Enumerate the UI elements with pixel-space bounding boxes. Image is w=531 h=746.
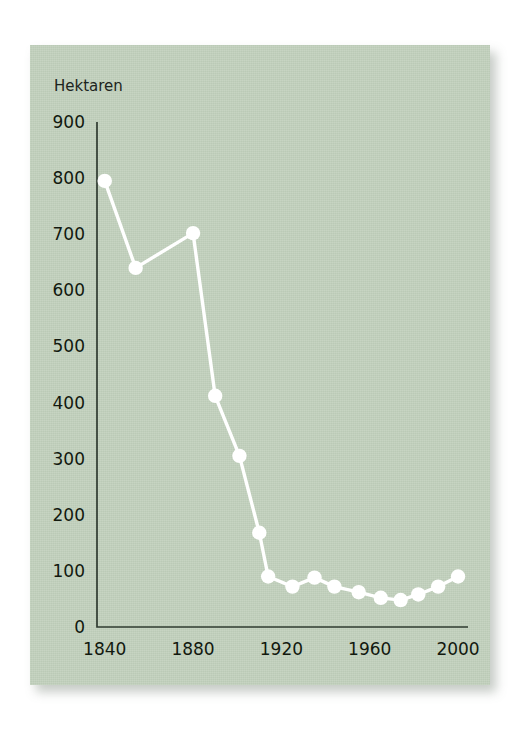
data-point [186,226,200,240]
y-tick-label: 500 [53,336,85,356]
x-tick-label: 1880 [171,639,214,659]
y-tick-label: 0 [74,617,85,637]
data-point [307,570,321,584]
y-tick-label: 100 [53,561,85,581]
line-chart: Hektaren 0100200300400500600700800900 18… [30,45,490,685]
data-point [411,587,425,601]
series-markers [98,174,466,608]
x-tick-label: 1960 [348,639,391,659]
y-tick-label: 900 [53,112,85,132]
axis-lines [97,122,468,627]
y-axis-title: Hektaren [54,77,123,95]
x-tick-label: 1840 [83,639,126,659]
data-point [374,591,388,605]
data-point [232,449,246,463]
data-point [327,579,341,593]
data-point [208,389,222,403]
y-tick-label: 400 [53,393,85,413]
data-point [98,174,112,188]
data-point [451,569,465,583]
y-axis-tick-labels: 0100200300400500600700800900 [53,112,85,637]
x-tick-label: 2000 [436,639,479,659]
data-point [351,585,365,599]
x-tick-label: 1920 [260,639,303,659]
data-point [252,526,266,540]
chart-panel: Hektaren 0100200300400500600700800900 18… [30,45,490,685]
y-tick-label: 600 [53,280,85,300]
data-point [393,593,407,607]
data-point [261,569,275,583]
y-tick-label: 300 [53,449,85,469]
data-point [128,261,142,275]
data-point [431,579,445,593]
series-line-hektaren [105,181,458,600]
y-tick-label: 200 [53,505,85,525]
y-tick-label: 700 [53,224,85,244]
data-point [285,579,299,593]
x-axis-tick-labels: 18401880192019602000 [83,639,480,659]
y-tick-label: 800 [53,168,85,188]
